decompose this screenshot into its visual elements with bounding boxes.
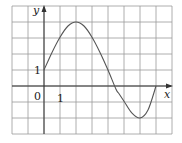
x-tick-1-label: 1 (57, 92, 64, 105)
origin-label: 0 (34, 90, 41, 103)
background (0, 0, 182, 143)
y-axis-label: y (32, 4, 40, 17)
y-tick-1-label: 1 (34, 64, 41, 77)
x-axis-label: x (164, 88, 171, 101)
function-graph: y x 0 1 1 (0, 0, 182, 143)
